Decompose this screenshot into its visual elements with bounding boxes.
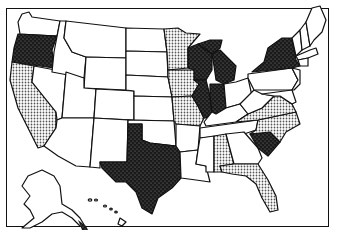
state-montana[interactable] <box>64 21 126 58</box>
state-south-dakota[interactable] <box>126 51 168 77</box>
state-alaska[interactable] <box>22 170 86 228</box>
state-maine[interactable] <box>306 6 326 46</box>
state-new-mexico[interactable] <box>90 118 128 168</box>
state-washington[interactable] <box>18 12 60 36</box>
state-north-dakota[interactable] <box>126 28 167 52</box>
state-hawaii[interactable] <box>88 199 126 226</box>
state-colorado[interactable] <box>94 89 134 120</box>
state-florida[interactable] <box>220 164 278 212</box>
state-wyoming[interactable] <box>84 57 126 90</box>
us-map <box>0 0 337 238</box>
state-connecticut[interactable] <box>298 58 308 66</box>
state-arkansas[interactable] <box>176 124 200 152</box>
state-kansas[interactable] <box>134 96 174 121</box>
